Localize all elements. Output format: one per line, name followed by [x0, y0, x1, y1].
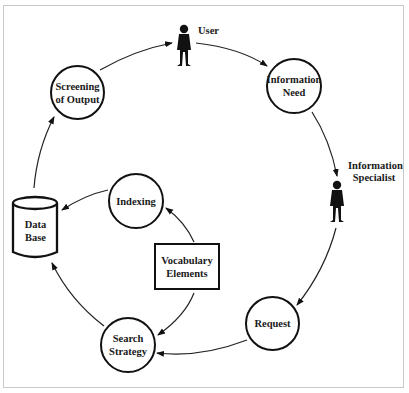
screening-line1: Screening: [55, 80, 99, 93]
node-information-need: Information Need: [266, 58, 322, 114]
edge-vocab-to-indexing: [166, 208, 194, 242]
indexing-line1: Indexing: [116, 195, 156, 208]
edge-specialist-to-request: [297, 228, 336, 305]
edge-database-to-screening: [34, 117, 54, 188]
specialist-person-icon: [330, 181, 344, 222]
specialist-label-line2: Specialist: [348, 172, 400, 184]
node-screening-of-output: Screening of Output: [50, 65, 105, 120]
specialist-label: Information Specialist: [348, 160, 400, 184]
search-strategy-line2: Strategy: [109, 345, 147, 358]
screening-line2: of Output: [55, 93, 99, 106]
node-search-strategy: Search Strategy: [100, 317, 156, 373]
edge-vocab-to-search: [158, 293, 194, 335]
edge-screening-to-user: [100, 43, 172, 70]
information-need-line2: Need: [267, 86, 322, 99]
specialist-label-line1: Information: [348, 160, 400, 172]
request-line1: Request: [254, 317, 290, 330]
edge-indexing-to-database: [62, 190, 108, 210]
diagram-connectors: [0, 0, 409, 393]
vocabulary-line2: Elements: [161, 267, 213, 280]
edge-user-to-need: [196, 43, 267, 66]
edge-search-to-database: [52, 263, 104, 326]
database-label: Data Base: [13, 218, 58, 244]
user-label: User: [198, 25, 219, 37]
node-vocabulary-elements: Vocabulary Elements: [154, 243, 220, 290]
user-person-icon: [177, 25, 191, 66]
node-indexing: Indexing: [108, 173, 164, 229]
search-strategy-line1: Search: [109, 332, 147, 345]
information-need-line1: Information: [267, 73, 322, 86]
database-line1: Data: [13, 218, 58, 231]
node-request: Request: [245, 296, 300, 351]
edge-need-to-specialist: [312, 112, 337, 176]
vocabulary-line1: Vocabulary: [161, 254, 213, 267]
database-line2: Base: [13, 231, 58, 244]
edge-request-to-search: [157, 340, 247, 354]
